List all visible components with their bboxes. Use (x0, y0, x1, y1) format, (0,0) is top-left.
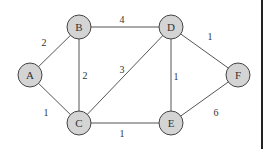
node-label: F (235, 69, 241, 81)
node-E: E (159, 111, 183, 135)
weighted-graph: 212431116ABCDEF (0, 0, 266, 149)
right-border-bar (261, 0, 263, 149)
edge-C-D (79, 27, 171, 123)
node-B: B (67, 15, 91, 39)
edge-weight-E-F: 6 (214, 107, 219, 118)
node-A: A (18, 63, 42, 87)
node-label: D (167, 21, 175, 33)
edge-weight-B-D: 4 (120, 14, 125, 25)
node-label: A (26, 69, 34, 81)
node-F: F (226, 63, 250, 87)
edge-weight-C-E: 1 (120, 128, 125, 139)
edge-weight-B-C: 2 (83, 70, 88, 81)
node-C: C (67, 111, 91, 135)
edge-weight-D-F: 1 (208, 31, 213, 42)
node-label: E (168, 117, 175, 129)
node-label: B (75, 21, 82, 33)
edge-weight-C-D: 3 (120, 64, 125, 75)
edge-weight-A-C: 1 (44, 107, 49, 118)
edge-weight-D-E: 1 (174, 71, 179, 82)
edge-weight-A-B: 2 (42, 37, 47, 48)
node-label: C (75, 117, 82, 129)
node-D: D (159, 15, 183, 39)
